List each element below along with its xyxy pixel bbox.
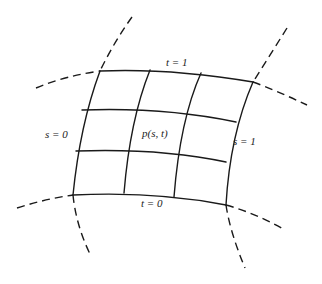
label-s0: s = 0	[45, 129, 68, 140]
label-t0: t = 0	[141, 198, 162, 209]
dash-t1-left	[36, 71, 100, 88]
curve-s-3	[174, 73, 201, 197]
dash-s1-top	[253, 28, 287, 82]
dash-s0-bottom	[73, 195, 90, 254]
curve-t1	[100, 70, 253, 82]
dash-t1-right	[253, 82, 307, 105]
patch-drawing	[0, 0, 322, 284]
label-s1: s = 1	[233, 136, 256, 147]
curve-s0	[73, 71, 100, 195]
curve-t-3	[76, 150, 226, 162]
label-t1: t = 1	[166, 57, 187, 68]
surface-patch-diagram: t = 1 t = 0 s = 0 s = 1 p(s, t)	[0, 0, 322, 284]
dash-t0-right	[226, 205, 285, 230]
curve-t-2	[82, 110, 236, 123]
dash-s0-top	[100, 17, 132, 71]
dash-s1-bottom	[226, 205, 245, 268]
dash-t0-left	[17, 195, 73, 208]
label-point-p: p(s, t)	[142, 128, 168, 139]
